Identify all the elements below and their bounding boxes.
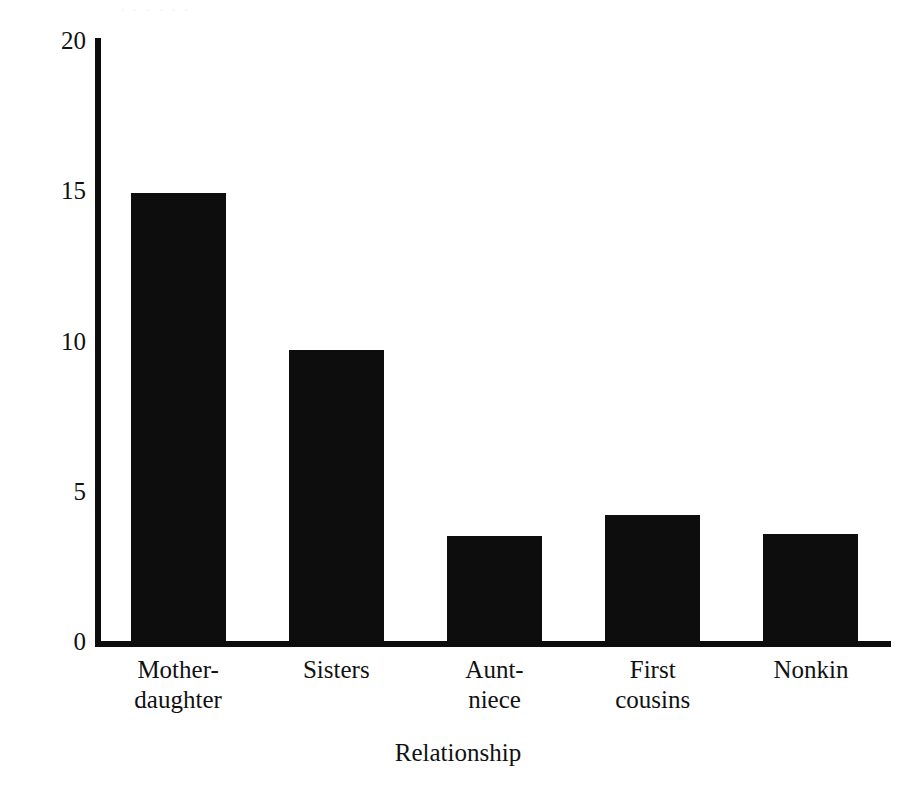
bar [763, 534, 858, 641]
category-label-line: Aunt- [465, 656, 523, 683]
bar [289, 350, 384, 641]
category-label-line: First [630, 656, 676, 683]
bar [605, 515, 700, 641]
y-axis-tick-label: 10 [2, 328, 86, 353]
y-axis-tick-label: 20 [2, 28, 86, 53]
bar [131, 193, 226, 641]
x-axis-title: Relationship [0, 738, 916, 768]
x-axis-category-label: Nonkin [701, 655, 916, 685]
x-axis-line [95, 641, 891, 647]
bar [447, 536, 542, 641]
category-label-line: Sisters [303, 656, 370, 683]
y-axis-tick-label: 15 [2, 178, 86, 203]
category-label-line: cousins [543, 685, 763, 715]
category-label-line: Nonkin [773, 656, 848, 683]
category-label-line: Mother- [137, 656, 218, 683]
bar-chart-figure: · · · · · · 05101520 Percent of cooperat… [0, 0, 916, 804]
y-axis-tick-label: 5 [2, 478, 86, 503]
category-label-line: daughter [68, 685, 288, 715]
y-axis-line [95, 38, 101, 647]
y-axis-tick-label: 0 [2, 629, 86, 654]
scan-artifact-text: · · · · · · [120, 2, 191, 19]
